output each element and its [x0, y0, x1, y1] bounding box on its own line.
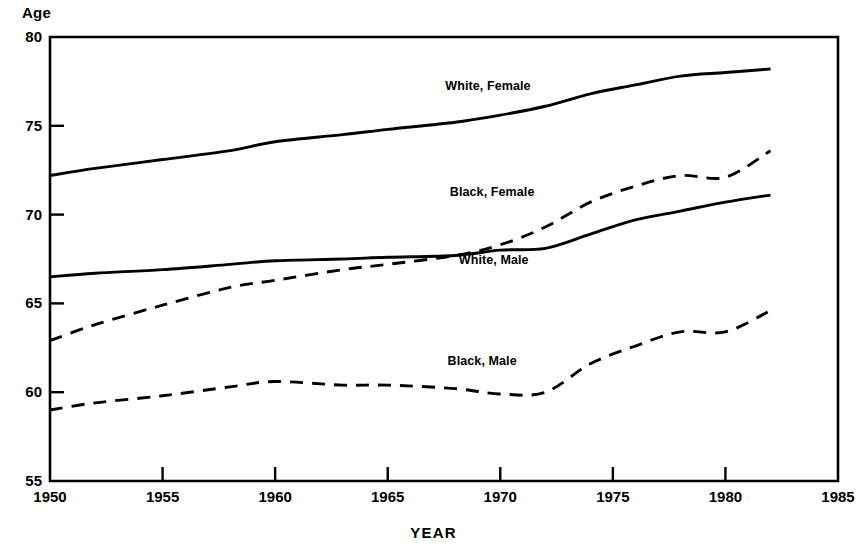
data-series	[50, 69, 770, 410]
series-line-white-female	[50, 69, 770, 176]
series-label-white-male: White, Male	[459, 253, 529, 267]
series-line-black-female	[50, 151, 770, 341]
series-line-white-male	[50, 195, 770, 277]
series-label-white-female: White, Female	[445, 79, 530, 93]
plot-area	[0, 0, 867, 552]
x-axis-title: YEAR	[0, 524, 867, 541]
life-expectancy-chart: Age 807570656055 19501955196019651970197…	[0, 0, 867, 552]
series-line-black-male	[50, 311, 770, 410]
series-label-black-female: Black, Female	[450, 185, 535, 199]
axis-ticks	[50, 126, 725, 481]
axis-frame	[50, 37, 838, 481]
series-label-black-male: Black, Male	[448, 354, 517, 368]
